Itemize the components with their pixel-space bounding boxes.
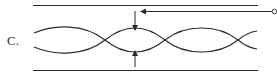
source-circle-icon (272, 9, 277, 14)
wave-curves (34, 27, 257, 53)
input-arrow (141, 9, 277, 14)
figure-label: C. (7, 33, 19, 48)
standing-wave-diagram: C. (0, 0, 277, 78)
